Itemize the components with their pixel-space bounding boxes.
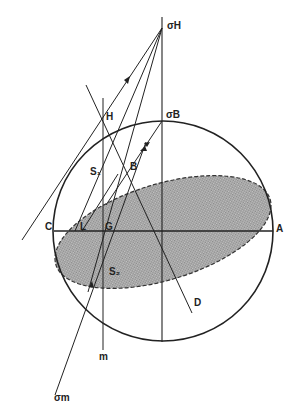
diagram-canvas [0,0,295,413]
label-sigma-B: σB [166,110,180,120]
label-A: A [276,224,283,234]
label-L: L [80,222,86,232]
label-m: m [99,352,108,362]
label-S1: S₁ [90,167,101,177]
label-sigma-m: σm [54,393,70,403]
label-D: D [194,298,201,308]
label-G: G [105,222,113,232]
label-H: H [106,112,113,122]
label-sigma-H: σH [167,21,181,31]
label-B: B [130,162,137,172]
label-S2: S₂ [109,267,120,277]
arrow-icon [124,76,130,84]
label-C: C [45,222,52,232]
stress-ellipse [42,153,284,310]
